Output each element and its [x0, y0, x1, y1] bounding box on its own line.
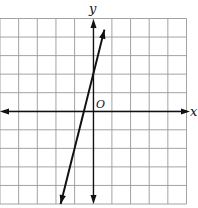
origin-label: O — [96, 98, 105, 111]
y-axis-label: y — [88, 1, 97, 16]
x-axis-right-arrow-icon — [181, 109, 190, 115]
x-axis-left-arrow-icon — [0, 109, 9, 115]
coordinate-plane: x y O — [0, 0, 198, 208]
line-top-arrow-icon — [99, 30, 105, 40]
x-axis-label: x — [190, 104, 198, 119]
y-axis-top-arrow-icon — [91, 19, 97, 28]
axes — [0, 19, 190, 204]
line-bottom-arrow-icon — [60, 194, 66, 204]
y-axis-bottom-arrow-icon — [91, 195, 97, 204]
